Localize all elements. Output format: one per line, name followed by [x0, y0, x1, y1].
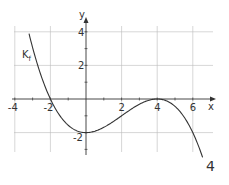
- svg-text:2: 2: [78, 60, 84, 71]
- svg-text:4: 4: [154, 102, 160, 113]
- function-graph: -4-224642-2 Kf y x: [0, 0, 229, 185]
- grid: [14, 26, 213, 152]
- svg-text:2: 2: [119, 102, 125, 113]
- svg-text:-2: -2: [43, 102, 53, 113]
- svg-text:-2: -2: [73, 132, 83, 143]
- svg-text:6: 6: [190, 102, 196, 113]
- x-axis-label: x: [208, 101, 214, 112]
- tick-labels: -4-224642-2: [8, 27, 196, 143]
- svg-text:-4: -4: [8, 102, 18, 113]
- page-number: 4: [206, 158, 215, 174]
- y-axis-label: y: [79, 9, 85, 20]
- svg-text:4: 4: [78, 27, 84, 38]
- curve-label: Kf: [22, 49, 32, 63]
- curve-kf: [29, 34, 203, 158]
- axes: [12, 17, 216, 155]
